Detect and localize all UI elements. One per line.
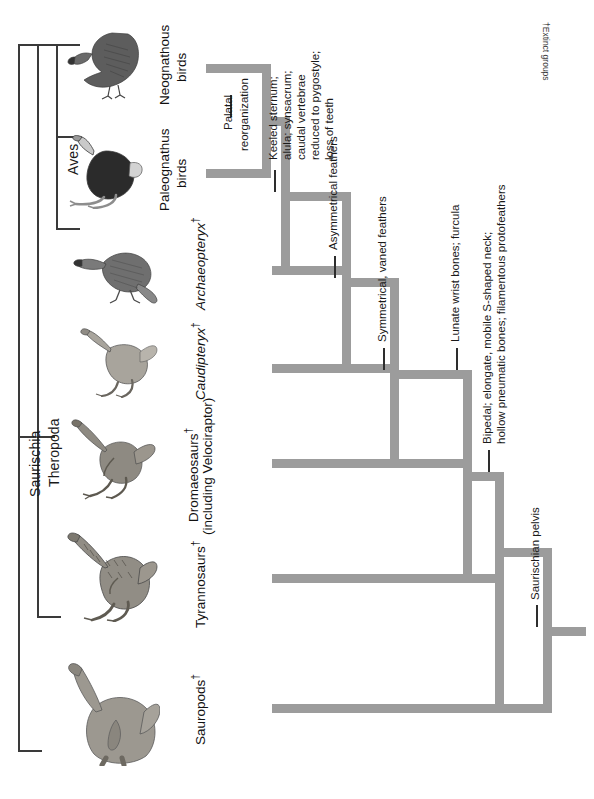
char-line: hollow pneumatic bones; filamentous prot… [495,184,509,444]
extinct-dagger-icon: † [190,217,201,223]
tip-label-sauropods: Sauropods† [190,674,208,745]
tip-label-text: Dromaeosaurs [186,433,201,522]
caudipteryx-illustration [70,322,158,398]
leader-asymmetrical [334,256,336,278]
footnote-extinct-groups: †Extinct groups [541,22,551,81]
char-line: reduced to pygostyle; [309,51,323,160]
char-label-keeled-l3: caudal vertebrae [295,74,309,160]
leader-lunate [456,348,458,370]
branch-tip-sauropods [272,704,550,713]
clade-label-theropoda: Theropoda [46,418,63,487]
extinct-dagger-icon: † [190,674,201,680]
leader-bipedal [488,450,490,472]
tip-label-text2: birds [174,53,189,82]
char-line: Keeled sternum; [267,76,281,160]
tip-label-paleognathus-birds-line2: birds [174,159,190,188]
char-line: Symmetrical, vaned feathers [376,196,390,342]
tip-label-tyrannosaurs: Tyrannosaurs† [190,541,208,628]
char-label-palatal-line2: reorganization [238,78,252,151]
tip-label-dromaeosaurs: Dromaeosaurs† [183,428,201,522]
leader-pelvis [536,605,538,627]
char-line: Asymmetrical feathers [327,136,341,250]
tip-label-text: Neognathous [157,25,172,105]
branch-tip-caudipteryx [272,364,398,373]
tip-label-text: Archaeopteryx [193,223,208,310]
char-line: alula; synsacrum; [281,71,295,160]
ostrich-illustration [60,133,144,209]
leader-keeled [274,170,276,192]
char-label-palatal: Palatal [222,95,236,130]
extinct-dagger-icon: † [183,428,194,434]
clade-label-saurischia: Saurischia [27,431,44,497]
tip-label-text2: birds [174,159,189,188]
char-line: Bipedal; elongate, mobile S-shaped neck; [481,232,495,444]
tip-label-neognathous-birds: Neognathous [157,25,173,105]
branch-tip-dromaeosaurs [272,459,471,468]
char-line: caudal vertebrae [295,74,309,160]
extinct-dagger-icon: † [190,322,201,328]
tip-label-text: Tyrannosaurs [193,546,208,628]
tip-label-archaeopteryx: Archaeopteryx† [190,217,208,310]
archaeopteryx-illustration [72,232,158,304]
branch-tip-neognathous [206,64,270,73]
tip-label-dromaeosaurs-line2: (including Velociraptor) [200,398,216,535]
leader-symmetrical [383,348,385,370]
char-line: Palatal [222,95,236,130]
char-label-bipedal-l2: hollow pneumatic bones; filamentous prot… [495,184,509,444]
tip-label-text: Caudipteryx [193,328,208,400]
char-label-pelvis: Saurischian pelvis [529,507,543,600]
tip-label-text: Paleognathus [157,128,172,211]
branch-stem-symmetrical [390,370,471,379]
char-line: reorganization [238,78,252,151]
char-line: Saurischian pelvis [529,507,543,600]
extinct-dagger-icon: † [190,541,201,547]
char-label-symmetrical: Symmetrical, vaned feathers [376,196,390,342]
hawk-illustration [66,26,144,100]
cladogram-figure: Saurischia Theropoda Aves Neognathous bi… [0,0,594,799]
char-label-asymmetrical: Asymmetrical feathers [327,136,341,250]
branch-root-stem [543,627,586,636]
tip-label-paleognathus-birds: Paleognathus [157,128,173,211]
char-label-keeled-l1: Keeled sternum; [267,76,281,160]
char-label-bipedal-l1: Bipedal; elongate, mobile S-shaped neck; [481,232,495,444]
char-line: Lunate wrist bones; furcula [449,205,463,342]
tip-label-text2: (including Velociraptor) [200,398,215,535]
char-label-lunate: Lunate wrist bones; furcula [449,205,463,342]
tip-label-neognathous-birds-line2: birds [174,53,190,82]
tip-label-caudipteryx: Caudipteryx† [190,322,208,400]
dromaeosaur-illustration [64,414,156,500]
char-label-keeled-l4: reduced to pygostyle; [309,51,323,160]
tip-label-text: Sauropods [193,680,208,745]
sauropod-illustration [60,662,160,766]
char-label-keeled-l2: alula; synsacrum; [281,71,295,160]
branch-tip-paleognathus [206,169,270,178]
tyrannosaur-illustration [62,530,158,622]
branch-vert-bipedal [495,472,504,713]
